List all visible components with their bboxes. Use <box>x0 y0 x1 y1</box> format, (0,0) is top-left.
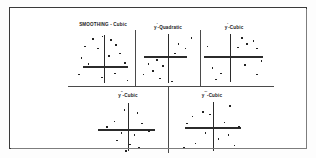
data-point <box>102 36 104 38</box>
data-point <box>134 134 136 136</box>
data-point <box>162 65 164 67</box>
data-point <box>253 40 255 42</box>
prime-marker: ' <box>227 23 228 27</box>
data-point <box>114 73 116 75</box>
data-point <box>88 63 90 65</box>
panel-plot-area-2 <box>138 32 198 84</box>
panel-title-5: y'''-Cubic <box>176 90 248 99</box>
data-point <box>115 44 117 46</box>
axis-horizontal <box>204 56 262 58</box>
data-point <box>97 48 99 50</box>
data-point <box>114 121 116 123</box>
panel-title-2: y'-Quadratic <box>138 22 198 31</box>
panel-divider-horizontal <box>68 86 274 87</box>
data-point <box>152 70 154 72</box>
data-point <box>186 123 188 125</box>
panel-plot-area-5 <box>176 100 248 152</box>
data-point <box>174 53 176 55</box>
data-point <box>241 37 243 39</box>
data-point <box>121 132 123 134</box>
scatter-panel-1: SMOOTHING - Cubic <box>72 22 134 84</box>
scatter-panel-3: y'-Cubic <box>203 22 265 84</box>
data-point <box>256 74 258 76</box>
prime-marker: ''' <box>205 91 207 95</box>
panel-plot-area-1 <box>72 32 134 84</box>
data-point <box>119 53 121 55</box>
data-point <box>220 73 222 75</box>
data-point <box>205 132 207 134</box>
panel-title-1: SMOOTHING - Cubic <box>72 22 134 28</box>
figure-frame: SMOOTHING - Cubic y'-Quadratic y'-Cubic … <box>9 7 307 149</box>
data-point <box>229 105 231 107</box>
data-point <box>156 59 158 61</box>
data-point <box>209 114 211 116</box>
data-point <box>207 46 209 48</box>
data-point <box>228 134 230 136</box>
axis-vertical <box>168 34 169 83</box>
scatter-panel-4: y''-Cubic <box>92 90 164 152</box>
data-point <box>215 79 217 81</box>
data-point <box>108 55 110 57</box>
panel-plot-area-3 <box>203 32 265 84</box>
data-point <box>148 130 150 132</box>
panel-plot-area-4 <box>92 100 164 152</box>
data-point <box>127 80 129 82</box>
data-point <box>116 140 118 142</box>
prime-marker: '' <box>121 91 123 95</box>
axis-vertical <box>230 34 231 82</box>
data-point <box>141 123 143 125</box>
data-point <box>129 144 131 146</box>
data-point <box>185 48 187 50</box>
data-point <box>244 64 246 66</box>
data-point <box>218 138 220 140</box>
data-point <box>171 81 173 83</box>
data-point <box>202 111 204 113</box>
data-point <box>148 63 150 65</box>
data-point <box>159 78 161 80</box>
axis-horizontal <box>83 66 128 68</box>
data-point <box>261 60 263 62</box>
data-point <box>237 47 239 49</box>
data-point <box>192 116 194 118</box>
scatter-panel-5: y'''-Cubic <box>176 90 248 152</box>
panel-title-3: y'-Cubic <box>203 22 265 31</box>
data-point <box>124 109 126 111</box>
data-point <box>143 74 145 76</box>
data-point <box>106 126 108 128</box>
panel-divider-vertical-right <box>200 30 201 86</box>
prime-marker: ' <box>157 23 158 27</box>
data-point <box>191 37 193 39</box>
data-point <box>110 39 112 41</box>
scatter-panel-2: y'-Quadratic <box>138 22 198 84</box>
data-point <box>101 77 103 79</box>
data-point <box>183 147 185 149</box>
data-point <box>138 147 140 149</box>
data-point <box>256 48 258 50</box>
data-point <box>81 57 83 59</box>
data-point <box>178 43 180 45</box>
axis-horizontal <box>98 129 156 131</box>
data-point <box>212 67 214 69</box>
panel-title-4: y''-Cubic <box>92 90 164 99</box>
data-point <box>234 145 236 147</box>
data-point <box>238 126 240 128</box>
axis-horizontal <box>144 56 187 58</box>
data-point <box>246 43 248 45</box>
axis-horizontal <box>185 127 241 129</box>
data-point <box>137 112 139 114</box>
panel-divider-vertical-left <box>135 30 136 86</box>
data-point <box>84 46 86 48</box>
figure-canvas: SMOOTHING - Cubic y'-Quadratic y'-Cubic … <box>0 0 316 158</box>
data-point <box>78 74 80 76</box>
data-point <box>124 62 126 64</box>
data-point <box>195 143 197 145</box>
axis-vertical <box>104 35 105 83</box>
data-point <box>92 38 94 40</box>
data-point <box>125 150 127 152</box>
panel-divider-vertical-bottom <box>168 86 169 153</box>
data-point <box>224 122 226 124</box>
